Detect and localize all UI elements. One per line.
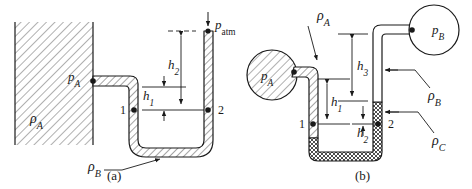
tube-fluid-b-b [373,25,412,102]
label-h1-panel-a: h1 [143,89,154,106]
label-rho-a-panel-b: ρA [317,9,330,26]
caption-panel-a: (a) [107,168,121,184]
label-p-a-panel-b: pA [261,69,273,86]
label-point-2-panel-b: 2 [388,117,394,132]
wall-reservoir-a [15,22,93,145]
p-atm-indicator-a [205,12,210,34]
pressure-a-tap-marker-b [291,69,297,75]
pressure-a-tap-marker [90,78,96,84]
figure-canvas [0,0,472,189]
label-rho-b-panel-a: ρB [88,160,101,177]
label-h1-panel-b: h1 [331,95,342,112]
pressure-b-tap-marker-b [409,27,415,33]
rho-a-leader-b [308,26,317,60]
point-1-marker-a [131,107,137,113]
point-2-marker-a [205,107,211,113]
label-p-atm-panel-a: patm [215,18,236,35]
point-2-marker-b [375,121,381,127]
caption-panel-b: (b) [355,168,370,184]
label-h3-panel-b: h3 [357,59,368,76]
manometer-figure: ρA pA h1 h2 patm ρB 1 2 (a) ρA pA pB h1 … [0,0,472,189]
panel-b-graphics [247,5,459,161]
label-rho-c-panel-b: ρC [432,134,445,151]
point-1-marker-b [310,121,316,127]
label-p-b-panel-b: pB [432,23,444,40]
panel-a-graphics [15,12,213,170]
label-point-1-panel-b: 1 [299,117,305,132]
tube-fluid-c-b [309,102,382,161]
label-point-2-panel-a: 2 [218,103,224,118]
label-h2-panel-a: h2 [168,58,179,75]
rho-b-leader-b [385,70,430,88]
label-h2-panel-b: h2 [357,126,368,143]
label-point-1-panel-a: 1 [120,103,126,118]
label-rho-a-panel-a: ρA [30,112,43,129]
label-p-a-panel-a: pA [68,70,80,87]
label-rho-b-panel-b: ρB [428,89,441,106]
